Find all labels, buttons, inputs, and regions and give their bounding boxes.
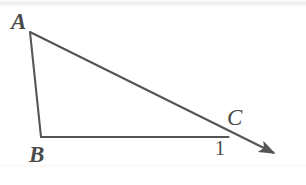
segment-ab — [30, 32, 41, 137]
geometry-figure: A B C 1 — [0, 0, 306, 185]
angle-label-1: 1 — [215, 138, 225, 158]
triangle-diagram-svg — [0, 0, 306, 185]
ray-ac-extended — [30, 32, 274, 153]
vertex-label-c: C — [227, 106, 242, 129]
vertex-label-b: B — [29, 143, 44, 166]
vertex-label-a: A — [11, 10, 26, 33]
